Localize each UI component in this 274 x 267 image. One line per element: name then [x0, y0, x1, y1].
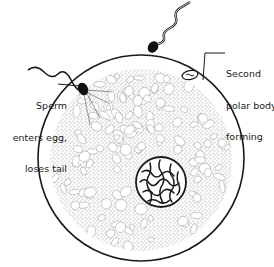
label-line: loses tail	[13, 164, 67, 175]
label-second-polar-body: Second polar body forming	[226, 48, 274, 153]
yolk-vacuole	[73, 105, 80, 118]
yolk-vacuole	[106, 105, 111, 111]
label-sperm-enters-egg: Sperm enters egg, loses tail	[13, 80, 67, 185]
yolk-vacuole	[94, 81, 106, 87]
label-line: enters egg,	[13, 133, 67, 144]
sperm-approaching	[145, 2, 190, 55]
label-line: Sperm	[13, 101, 67, 112]
label-line: polar body	[226, 101, 274, 112]
polar-body-leader-line	[203, 53, 225, 80]
nucleus	[136, 157, 186, 207]
label-line: Second	[226, 69, 274, 80]
yolk-vacuole	[135, 204, 147, 215]
label-line: forming	[226, 132, 274, 143]
yolk-vacuole	[134, 76, 144, 81]
